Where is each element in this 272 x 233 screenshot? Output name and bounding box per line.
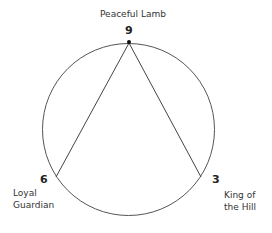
point-9-dot — [127, 40, 131, 44]
point-6-label-line2: Guardian — [13, 199, 54, 211]
point-3-number: 3 — [212, 174, 220, 186]
point-6-label-line1: Loyal — [13, 187, 37, 199]
connection-9-3 — [129, 43, 201, 177]
outer-circle — [43, 44, 215, 216]
point-6-number: 6 — [40, 174, 48, 186]
point-9-label: Peaceful Lamb — [100, 8, 166, 20]
point-9-number: 9 — [125, 25, 133, 37]
point-3-label-line1: King of — [224, 189, 255, 201]
connection-9-6 — [56, 43, 129, 177]
point-3-label-line2: the Hill — [224, 201, 256, 213]
